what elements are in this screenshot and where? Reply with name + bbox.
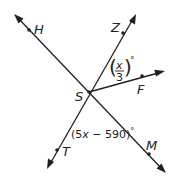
fraction-denominator: 3	[116, 71, 123, 84]
point-h	[27, 28, 31, 32]
arrowhead-f-end	[154, 70, 165, 77]
label-h: H	[34, 22, 44, 37]
point-z	[121, 31, 125, 35]
label-f: F	[137, 82, 145, 97]
angle-zsf-label: ( x 3 ) °	[109, 55, 135, 84]
degree-symbol: °	[130, 55, 135, 65]
point-f	[140, 74, 144, 78]
label-s: S	[75, 89, 83, 104]
label-t: T	[62, 144, 71, 159]
point-t	[55, 148, 59, 152]
label-z: Z	[110, 20, 121, 35]
label-m: M	[146, 138, 157, 153]
angle-diagram: H Z F S T M ( x 3 ) ° (5x − 590)°	[0, 0, 175, 178]
angle-tsm-label: (5x − 590)°	[71, 127, 134, 141]
point-s	[87, 90, 91, 94]
